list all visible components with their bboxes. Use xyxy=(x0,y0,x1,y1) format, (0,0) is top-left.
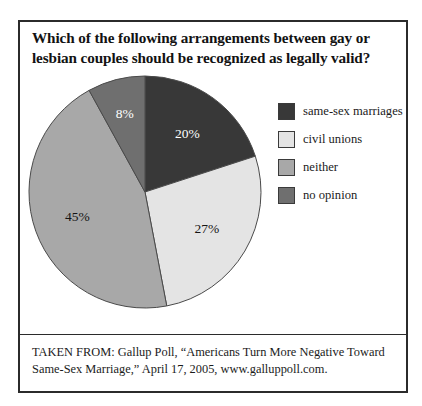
chart-legend: same-sex marriages civil unions neither … xyxy=(278,98,406,210)
source-note-line-2: Same-Sex Marriage,” April 17, 2005, www.… xyxy=(32,361,396,378)
chart-title: Which of the following arrangements betw… xyxy=(32,28,390,68)
legend-label-civil-unions: civil unions xyxy=(303,133,362,146)
legend-item-neither[interactable]: neither xyxy=(278,154,406,181)
pie-chart-svg: 20%27%45%8% xyxy=(27,74,263,310)
legend-item-no-opinion[interactable]: no opinion xyxy=(278,182,406,209)
figure-frame: Which of the following arrangements betw… xyxy=(18,20,408,393)
pie-slice-label-neither: 45% xyxy=(65,209,90,224)
legend-item-same-sex-marriages[interactable]: same-sex marriages xyxy=(278,98,406,125)
legend-swatch-no-opinion xyxy=(278,187,295,204)
source-note: TAKEN FROM: Gallup Poll, “Americans Turn… xyxy=(32,344,396,378)
legend-swatch-neither xyxy=(278,159,295,176)
chart-title-line-1: Which of the following arrangements betw… xyxy=(32,28,390,48)
pie-slice-label-no-opinion: 8% xyxy=(116,106,134,121)
legend-swatch-same-sex-marriages xyxy=(278,103,295,120)
legend-label-same-sex-marriages: same-sex marriages xyxy=(303,105,403,118)
legend-label-no-opinion: no opinion xyxy=(303,189,357,202)
pie-slice-label-civil-unions: 27% xyxy=(195,221,220,236)
pie-chart: 20%27%45%8% xyxy=(27,74,263,310)
legend-label-neither: neither xyxy=(303,161,338,174)
pie-slice-group xyxy=(29,76,261,308)
chart-title-line-2: lesbian couples should be recognized as … xyxy=(32,48,390,68)
source-note-line-1: TAKEN FROM: Gallup Poll, “Americans Turn… xyxy=(32,344,396,361)
legend-swatch-civil-unions xyxy=(278,131,295,148)
source-divider xyxy=(20,334,406,335)
legend-item-civil-unions[interactable]: civil unions xyxy=(278,126,406,153)
pie-slice-label-same-sex-marriages: 20% xyxy=(175,126,200,141)
